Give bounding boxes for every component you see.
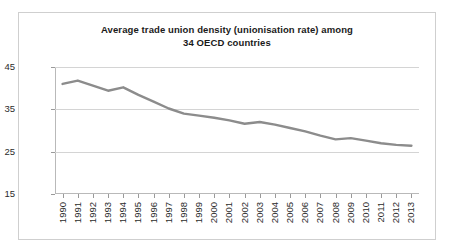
x-tick-mark bbox=[78, 194, 79, 198]
x-tick-mark bbox=[184, 194, 185, 198]
line-series bbox=[55, 67, 419, 194]
x-tick-mark bbox=[214, 194, 215, 198]
x-tick-mark bbox=[229, 194, 230, 198]
chart-container: Average trade union density (unionisatio… bbox=[18, 12, 436, 240]
x-tick-mark bbox=[290, 194, 291, 198]
chart-title-line-2: 34 OECD countries bbox=[19, 36, 435, 49]
x-tick-label: 1990 bbox=[58, 202, 68, 223]
x-tick-label: 2013 bbox=[406, 202, 416, 223]
x-tick-label: 2000 bbox=[209, 202, 219, 223]
x-tick-label: 1994 bbox=[118, 202, 128, 223]
x-tick-label: 2007 bbox=[315, 202, 325, 223]
x-tick-label: 2004 bbox=[270, 202, 280, 223]
x-tick-label: 2001 bbox=[224, 202, 234, 223]
x-tick-label: 2006 bbox=[300, 202, 310, 223]
x-tick-mark bbox=[260, 194, 261, 198]
x-tick-label: 1995 bbox=[133, 202, 143, 223]
y-tick-label: 35 bbox=[0, 104, 15, 113]
x-tick-label: 1992 bbox=[88, 202, 98, 223]
x-tick-label: 2009 bbox=[346, 202, 356, 223]
y-tick-label: 25 bbox=[0, 147, 15, 156]
x-tick-mark bbox=[381, 194, 382, 198]
x-tick-label: 2003 bbox=[255, 202, 265, 223]
x-tick-mark bbox=[199, 194, 200, 198]
x-tick-label: 2002 bbox=[240, 202, 250, 223]
x-tick-label: 2010 bbox=[361, 202, 371, 223]
x-tick-mark bbox=[396, 194, 397, 198]
x-tick-label: 2005 bbox=[285, 202, 295, 223]
x-tick-mark bbox=[123, 194, 124, 198]
x-tick-mark bbox=[138, 194, 139, 198]
x-tick-label: 1999 bbox=[194, 202, 204, 223]
plot-area: 15253545 bbox=[55, 67, 419, 194]
x-tick-mark bbox=[411, 194, 412, 198]
x-tick-mark bbox=[320, 194, 321, 198]
x-tick-label: 1997 bbox=[164, 202, 174, 223]
x-tick-label: 2012 bbox=[391, 202, 401, 223]
x-tick-mark bbox=[154, 194, 155, 198]
chart-title-line-1: Average trade union density (unionisatio… bbox=[19, 23, 435, 36]
series-polyline bbox=[63, 81, 412, 146]
x-tick-mark bbox=[366, 194, 367, 198]
x-tick-mark bbox=[245, 194, 246, 198]
y-tick-label: 45 bbox=[0, 62, 15, 71]
x-tick-mark bbox=[63, 194, 64, 198]
x-tick-mark bbox=[93, 194, 94, 198]
x-tick-mark bbox=[351, 194, 352, 198]
x-tick-mark bbox=[305, 194, 306, 198]
x-tick-label: 2008 bbox=[331, 202, 341, 223]
x-tick-label: 1991 bbox=[73, 202, 83, 223]
x-tick-mark bbox=[336, 194, 337, 198]
x-tick-label: 2011 bbox=[376, 202, 386, 222]
x-tick-mark bbox=[169, 194, 170, 198]
x-tick-label: 1998 bbox=[179, 202, 189, 223]
x-axis: 1990199119921993199419951996199719981999… bbox=[55, 194, 419, 252]
x-tick-label: 1996 bbox=[149, 202, 159, 223]
x-tick-mark bbox=[108, 194, 109, 198]
y-tick-label: 15 bbox=[0, 189, 15, 198]
chart-title: Average trade union density (unionisatio… bbox=[19, 23, 435, 49]
x-tick-mark bbox=[275, 194, 276, 198]
x-tick-label: 1993 bbox=[103, 202, 113, 223]
